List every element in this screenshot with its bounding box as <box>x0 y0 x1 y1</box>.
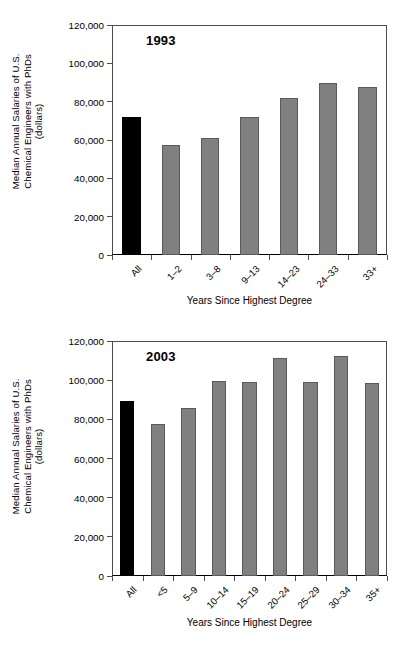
y-axis-title-1993: Median Annual Salaries of U.S. Chemical … <box>10 6 45 236</box>
bar-slot <box>265 341 296 576</box>
x-axis-labels-1993: All1–23–89–1314–2324–3333+ <box>112 255 387 315</box>
x-axis-label: 14–23 <box>275 263 302 290</box>
bar-slot <box>234 341 265 576</box>
bar-slot <box>204 341 235 576</box>
bar-series-2003 <box>112 341 387 576</box>
bar-3-8[interactable] <box>201 138 219 255</box>
bar-1-2[interactable] <box>162 145 180 255</box>
y-tick-label: 100,000 <box>69 375 112 386</box>
bar-slot <box>357 341 388 576</box>
x-axis-label: <5 <box>154 584 170 600</box>
y-axis-title-2003: Median Annual Salaries of U.S. Chemical … <box>10 331 45 561</box>
x-axis-label: 33+ <box>361 263 380 282</box>
x-axis-label: 25–29 <box>295 584 322 611</box>
x-axis-label: All <box>129 263 144 278</box>
x-axis-label: 15–19 <box>234 584 261 611</box>
y-tick-label: 0 <box>99 571 112 582</box>
bar-slot <box>348 25 387 255</box>
chart-panel-1993: Median Annual Salaries of U.S. Chemical … <box>0 0 395 324</box>
y-tick-label: 120,000 <box>69 20 112 31</box>
figure-root: Median Annual Salaries of U.S. Chemical … <box>0 0 395 649</box>
x-axis-label: 5–9 <box>181 584 200 603</box>
x-axis-label: 20–24 <box>265 584 292 611</box>
x-tick-mark <box>387 576 388 581</box>
x-axis-label: 35+ <box>364 584 383 603</box>
y-tick-label: 60,000 <box>74 453 112 464</box>
bar-slot <box>151 25 190 255</box>
y-tick-label: 120,000 <box>69 336 112 347</box>
y-tick-label: 80,000 <box>74 96 112 107</box>
bar-slot <box>230 25 269 255</box>
y-tick-label: 20,000 <box>74 531 112 542</box>
x-axis-label: 30–34 <box>326 584 353 611</box>
x-axis-label: 10–14 <box>204 584 231 611</box>
y-tick-label: 60,000 <box>74 135 112 146</box>
bar-33+[interactable] <box>358 87 376 255</box>
bar-10-14[interactable] <box>212 381 226 576</box>
y-tick-label: 20,000 <box>74 211 112 222</box>
bar-30-34[interactable] <box>334 356 348 576</box>
bar-slot <box>173 341 204 576</box>
bar-slot <box>295 341 326 576</box>
y-tick-label: 100,000 <box>69 58 112 69</box>
x-axis-label: 9–13 <box>239 263 262 286</box>
bar-24-33[interactable] <box>319 83 337 255</box>
bar-slot <box>308 25 347 255</box>
bar-all[interactable] <box>122 117 140 255</box>
bar-slot <box>112 25 151 255</box>
bar-25-29[interactable] <box>303 382 317 576</box>
bar-5-9[interactable] <box>181 408 195 576</box>
y-tick-label: 0 <box>99 250 112 261</box>
plot-area-1993: 020,00040,00060,00080,000100,000120,000 … <box>112 25 387 255</box>
x-tick-mark <box>387 255 388 260</box>
bar-slot <box>191 25 230 255</box>
x-axis-title-1993: Years Since Highest Degree <box>112 295 387 306</box>
y-tick-label: 40,000 <box>74 492 112 503</box>
bar-14-23[interactable] <box>280 98 298 255</box>
chart-panel-2003: Median Annual Salaries of U.S. Chemical … <box>0 325 395 649</box>
x-axis-label: 1–2 <box>164 263 183 282</box>
bar-15-19[interactable] <box>242 382 256 576</box>
plot-area-2003: 020,00040,00060,00080,000100,000120,000 … <box>112 341 387 576</box>
y-tick-label: 80,000 <box>74 414 112 425</box>
bar-slot <box>143 341 174 576</box>
x-axis-label: 24–33 <box>314 263 341 290</box>
bar-series-1993 <box>112 25 387 255</box>
bar-slot <box>326 341 357 576</box>
x-axis-label: 3–8 <box>204 263 223 282</box>
bar-9-13[interactable] <box>240 117 258 255</box>
bar-20-24[interactable] <box>273 358 287 576</box>
bar--5[interactable] <box>151 424 165 576</box>
y-tick-label: 40,000 <box>74 173 112 184</box>
bar-35+[interactable] <box>365 383 379 576</box>
bar-slot <box>269 25 308 255</box>
bar-all[interactable] <box>120 401 134 576</box>
x-axis-label: All <box>123 584 138 599</box>
bar-slot <box>112 341 143 576</box>
x-axis-title-2003: Years Since Highest Degree <box>112 617 387 628</box>
